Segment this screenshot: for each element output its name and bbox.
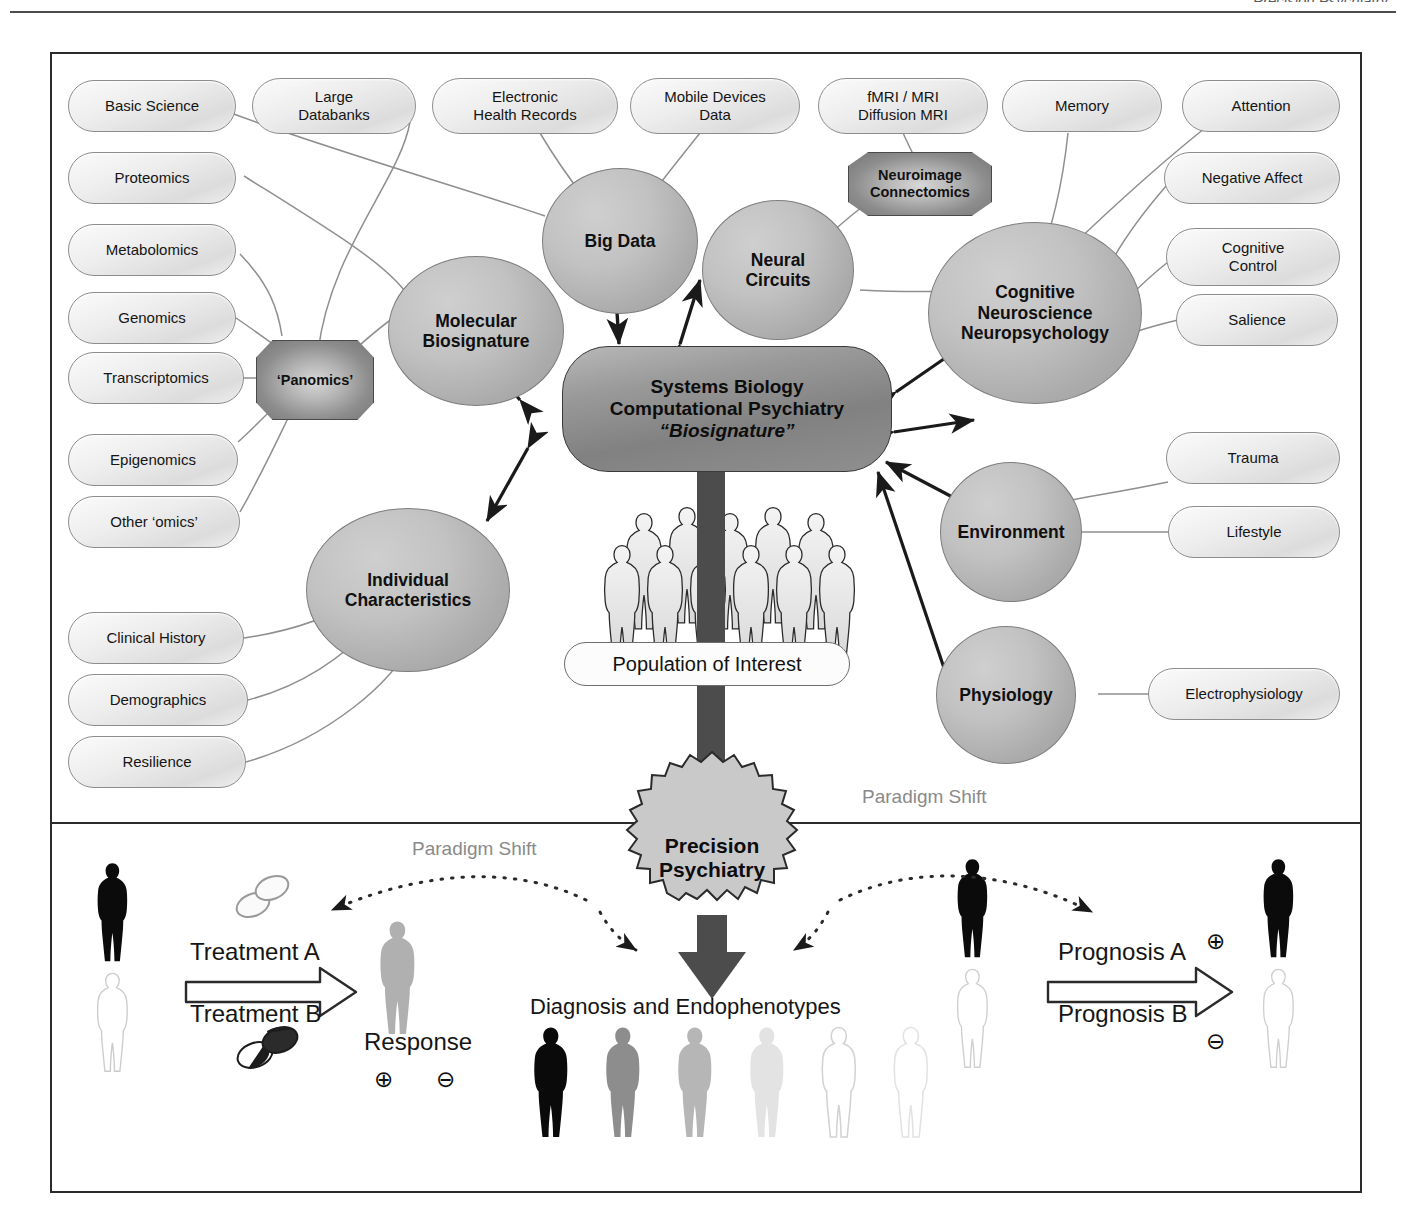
- prognosis-negative-icon: ⊖: [1206, 1030, 1225, 1053]
- label-mobile-devices-data[interactable]: Mobile Devices Data: [630, 78, 800, 134]
- label-attention[interactable]: Attention: [1182, 80, 1340, 132]
- node-individual-characteristics[interactable]: Individual Characteristics: [306, 508, 510, 672]
- node-systems-biology-hub[interactable]: Systems Biology Computational Psychiatry…: [562, 346, 892, 472]
- response-positive-icon: ⊕: [374, 1068, 393, 1091]
- prognosis-positive-icon: ⊕: [1206, 930, 1225, 953]
- response-negative-icon: ⊖: [436, 1068, 455, 1091]
- label-negative-affect[interactable]: Negative Affect: [1164, 152, 1340, 204]
- label-metabolomics[interactable]: Metabolomics: [68, 224, 236, 276]
- label-fmri-mri[interactable]: fMRI / MRI Diffusion MRI: [818, 78, 988, 134]
- node-precision-psychiatry[interactable]: Precision Psychiatry: [614, 802, 810, 914]
- label-trauma[interactable]: Trauma: [1166, 432, 1340, 484]
- page-header-rule: [10, 11, 1396, 13]
- label-electrophysiology[interactable]: Electrophysiology: [1148, 668, 1340, 720]
- label-memory[interactable]: Memory: [1002, 80, 1162, 132]
- label-resilience[interactable]: Resilience: [68, 736, 246, 788]
- node-panomics[interactable]: ‘Panomics’: [256, 340, 374, 420]
- label-large-databanks[interactable]: Large Databanks: [252, 78, 416, 134]
- label-paradigm-shift-right: Paradigm Shift: [862, 786, 987, 808]
- label-salience[interactable]: Salience: [1176, 294, 1338, 346]
- label-prognosis-b: Prognosis B: [1058, 1000, 1187, 1028]
- node-molecular-biosignature[interactable]: Molecular Biosignature: [388, 256, 564, 406]
- label-response: Response: [364, 1028, 472, 1056]
- label-prognosis-a: Prognosis A: [1058, 938, 1186, 966]
- label-epigenomics[interactable]: Epigenomics: [68, 434, 238, 486]
- label-electronic-health-records[interactable]: Electronic Health Records: [432, 78, 618, 134]
- label-diagnosis-endophenotypes: Diagnosis and Endophenotypes: [530, 994, 841, 1020]
- node-neural-circuits[interactable]: Neural Circuits: [702, 200, 854, 340]
- label-treatment-a: Treatment A: [190, 938, 320, 966]
- label-other-omics[interactable]: Other ‘omics’: [68, 496, 240, 548]
- node-cognitive-neuroscience[interactable]: Cognitive Neuroscience Neuropsychology: [928, 222, 1142, 404]
- node-neuroimage-connectomics[interactable]: Neuroimage Connectomics: [848, 152, 992, 216]
- label-clinical-history[interactable]: Clinical History: [68, 612, 244, 664]
- label-treatment-b: Treatment B: [190, 1000, 321, 1028]
- figure-stage: Precision Psychiatry: [0, 0, 1404, 1225]
- label-demographics[interactable]: Demographics: [68, 674, 248, 726]
- label-population-of-interest[interactable]: Population of Interest: [564, 642, 850, 686]
- label-basic-science[interactable]: Basic Science: [68, 80, 236, 132]
- label-lifestyle[interactable]: Lifestyle: [1168, 506, 1340, 558]
- label-proteomics[interactable]: Proteomics: [68, 152, 236, 204]
- page-header-text: Precision Psychiatry: [1253, 0, 1388, 2]
- node-big-data[interactable]: Big Data: [542, 168, 698, 314]
- node-physiology[interactable]: Physiology: [936, 626, 1076, 764]
- label-transcriptomics[interactable]: Transcriptomics: [68, 352, 244, 404]
- label-cognitive-control[interactable]: Cognitive Control: [1166, 228, 1340, 286]
- node-environment[interactable]: Environment: [940, 462, 1082, 602]
- label-paradigm-shift-left: Paradigm Shift: [412, 838, 537, 860]
- label-genomics[interactable]: Genomics: [68, 292, 236, 344]
